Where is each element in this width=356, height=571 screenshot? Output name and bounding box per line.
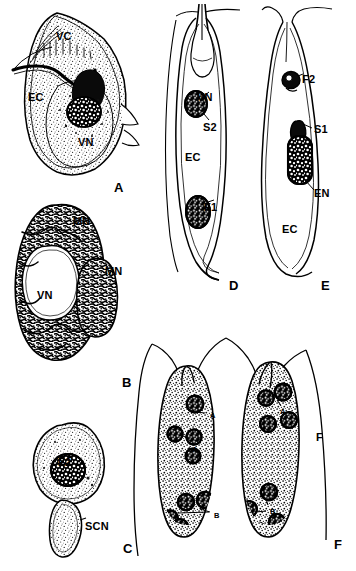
- panel-f-drawing: [134, 338, 326, 556]
- label-f-panel-f-upper: F: [316, 432, 323, 443]
- panel-letter-e: E: [321, 279, 330, 292]
- label-mn-panel-b-lower: MN: [105, 266, 123, 277]
- label-mn-panel-b-upper: MN: [73, 216, 91, 227]
- label-scn-panel-c: SCN: [85, 521, 109, 532]
- label-ec-panel-a: EC: [28, 92, 44, 103]
- label-ec-panel-d: EC: [185, 152, 201, 163]
- label-a-right: A: [280, 408, 285, 416]
- figure-drawing: [0, 0, 356, 571]
- panel-d-drawing: [166, 4, 241, 280]
- label-b-left: B: [214, 512, 219, 520]
- label-f2-panel-e: F2: [302, 74, 315, 85]
- label-vc-panel-a: VC: [56, 31, 72, 42]
- panel-letter-c: C: [123, 542, 132, 555]
- panel-e-drawing: [262, 7, 333, 277]
- panel-c-drawing: [33, 423, 104, 557]
- label-a-left-upper: A: [210, 412, 215, 420]
- label-vn-panel-d: VN: [197, 92, 213, 103]
- label-s2-panel-d: S2: [203, 122, 217, 133]
- label-f2-panel-c: F2: [58, 457, 71, 468]
- label-a-left-lower: A: [192, 446, 197, 454]
- panel-letter-f: F: [334, 538, 342, 551]
- panel-b-drawing: [15, 205, 117, 361]
- label-vn-panel-b: VN: [37, 290, 53, 301]
- figure-plate: VC EC VN MN MN VN F2 SCN VN S2 EC F1 F2 …: [0, 0, 356, 571]
- panel-letter-a: A: [114, 181, 123, 194]
- label-en-panel-e: EN: [314, 188, 330, 199]
- panel-letter-b: B: [122, 376, 131, 389]
- panel-letter-d: D: [229, 279, 238, 292]
- label-ec-panel-e: EC: [282, 224, 298, 235]
- label-s1-panel-e: S1: [314, 124, 328, 135]
- label-b-right: B: [270, 508, 275, 516]
- label-f1-panel-d: F1: [204, 202, 217, 213]
- label-vn-panel-a: VN: [78, 137, 94, 148]
